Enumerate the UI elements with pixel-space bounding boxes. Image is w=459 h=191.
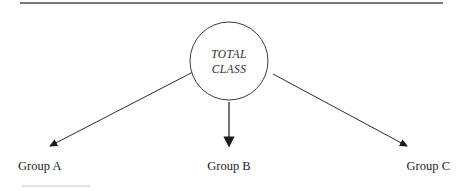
figure-canvas: TOTAL CLASS Group A Group B Group C bbox=[0, 0, 459, 191]
arrow-to-group-c bbox=[273, 74, 407, 146]
group-a-label: Group A bbox=[18, 159, 61, 173]
group-c-label: Group C bbox=[407, 159, 450, 173]
total-class-label-line2: CLASS bbox=[212, 63, 247, 75]
total-class-label-line1: TOTAL bbox=[211, 48, 246, 60]
group-b-label: Group B bbox=[207, 159, 250, 173]
total-class-circle bbox=[190, 22, 268, 100]
diagram-svg: TOTAL CLASS Group A Group B Group C bbox=[0, 0, 459, 191]
arrow-to-group-a bbox=[50, 72, 193, 146]
